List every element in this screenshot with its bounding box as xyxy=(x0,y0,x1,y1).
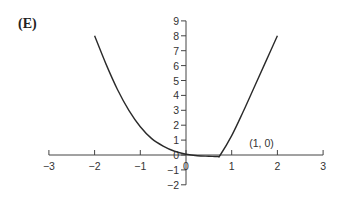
y-tick-label: 3 xyxy=(173,104,179,116)
x-tick-label: 1 xyxy=(229,160,235,172)
y-tick-label: 5 xyxy=(173,75,179,87)
x-tick-label: 0 xyxy=(183,160,189,172)
y-tick-label: −1 xyxy=(167,164,179,176)
x-tick-label: −2 xyxy=(89,160,101,172)
y-tick-label: 1 xyxy=(173,134,179,146)
y-tick-label: −2 xyxy=(167,179,179,191)
x-tick-label: −1 xyxy=(134,160,146,172)
panel-label: (E) xyxy=(18,16,37,32)
y-tick-label: 8 xyxy=(173,30,179,42)
y-tick-label: 6 xyxy=(173,60,179,72)
x-tick-label: 2 xyxy=(274,160,280,172)
annotations: (1, 0) xyxy=(249,137,274,149)
y-tick-label: 4 xyxy=(173,89,179,101)
x-tick-label: −3 xyxy=(43,160,55,172)
y-tick-label: 7 xyxy=(173,45,179,57)
point-annotation: (1, 0) xyxy=(249,137,274,149)
tick-labels: −3−2−10123−2−10123456789 xyxy=(43,15,326,191)
x-tick-label: 3 xyxy=(320,160,326,172)
y-tick-label: 9 xyxy=(173,15,179,27)
y-tick-label: 2 xyxy=(173,119,179,131)
chart: (E) −3−2−10123−2−10123456789 (1, 0) xyxy=(0,0,348,202)
